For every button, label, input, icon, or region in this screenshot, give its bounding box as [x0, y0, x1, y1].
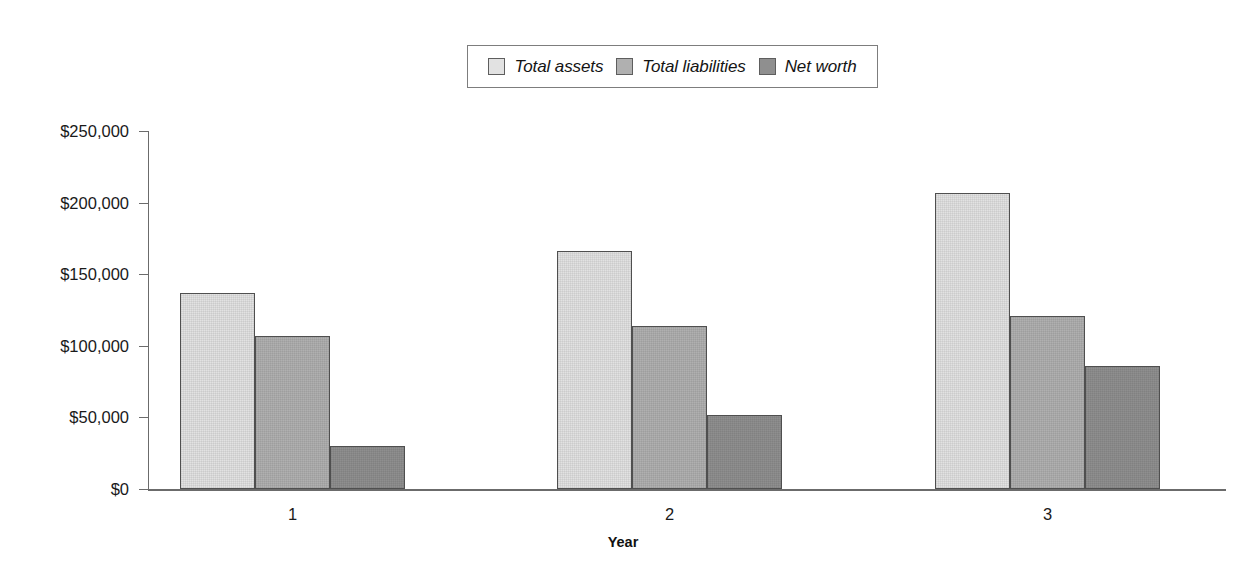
- x-axis-line: [148, 489, 1226, 491]
- y-axis-tick-label: $250,000: [9, 122, 129, 141]
- y-axis-tick: [139, 489, 149, 490]
- chart-legend: Total assets Total liabilities Net worth: [467, 45, 878, 88]
- legend-label-total-liabilities: Total liabilities: [642, 57, 746, 77]
- bar-total-liabilities-year-2: [632, 326, 707, 489]
- y-axis-tick-label: $100,000: [9, 337, 129, 356]
- y-axis-tick-label: $200,000: [9, 194, 129, 213]
- legend-swatch-net-worth: [759, 58, 776, 75]
- bar-total-assets-year-1: [180, 293, 255, 489]
- legend-label-net-worth: Net worth: [785, 57, 857, 77]
- legend-swatch-total-assets: [488, 58, 505, 75]
- legend-swatch-total-liabilities: [616, 58, 633, 75]
- bar-total-liabilities-year-1: [255, 336, 330, 489]
- y-axis-tick-label: $150,000: [9, 265, 129, 284]
- x-axis-label-year-2: 2: [610, 505, 730, 524]
- bar-total-assets-year-2: [557, 251, 632, 489]
- x-axis-title: Year: [0, 534, 1246, 550]
- bar-total-liabilities-year-3: [1010, 316, 1085, 489]
- bar-net-worth-year-1: [330, 446, 405, 489]
- legend-item-net-worth: Net worth: [759, 57, 857, 77]
- bar-net-worth-year-2: [707, 415, 782, 489]
- bar-chart: Total assets Total liabilities Net worth…: [0, 0, 1246, 587]
- legend-item-total-liabilities: Total liabilities: [616, 57, 746, 77]
- y-axis-tick-label: $50,000: [9, 408, 129, 427]
- bar-net-worth-year-3: [1085, 366, 1160, 489]
- bar-total-assets-year-3: [935, 193, 1010, 489]
- y-axis-tick-label: $0: [9, 480, 129, 499]
- legend-item-total-assets: Total assets: [488, 57, 603, 77]
- plot-area: [148, 131, 1238, 489]
- legend-label-total-assets: Total assets: [514, 57, 603, 77]
- x-axis-label-year-1: 1: [233, 505, 353, 524]
- x-axis-label-year-3: 3: [988, 505, 1108, 524]
